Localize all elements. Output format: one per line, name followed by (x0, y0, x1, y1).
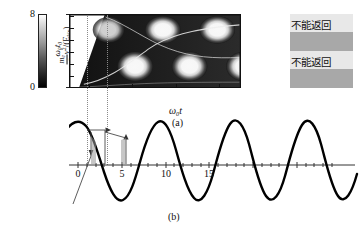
wave-canvas (69, 118, 359, 210)
panel-b-xtick-0: 0 (76, 168, 81, 179)
panel-b-xtick-10: 10 (161, 168, 171, 179)
panel-b-xtick-5: 5 (120, 168, 125, 179)
band-legend-group: 不能返回 不能返回 (290, 14, 353, 88)
band-label-2: 不能返回 (291, 54, 331, 69)
panel-a-heatmap: 3 2 1 0 -1 -2 -3 0 5 10 15 (69, 14, 241, 88)
colorbar: 8 0 me 2 v2/(Ekin) (38, 14, 47, 88)
colorbar-tick-label-max: 8 (21, 8, 35, 19)
colorbar-gradient (38, 14, 47, 88)
panel-b-xtick-15: 15 (204, 168, 214, 179)
panel-a-xlabel: ω0t (169, 105, 182, 117)
panel-a-ylabel: ω0t0 (52, 42, 63, 56)
heatmap-canvas (70, 15, 240, 88)
panel-b-caption: (b) (168, 211, 180, 222)
band-dark-2 (290, 69, 353, 88)
colorbar-tick-label-min: 0 (21, 81, 35, 92)
panel-b-wave: 0 5 10 15 (69, 118, 359, 210)
band-dark-1 (290, 32, 353, 51)
band-label-1: 不能返回 (291, 17, 331, 32)
